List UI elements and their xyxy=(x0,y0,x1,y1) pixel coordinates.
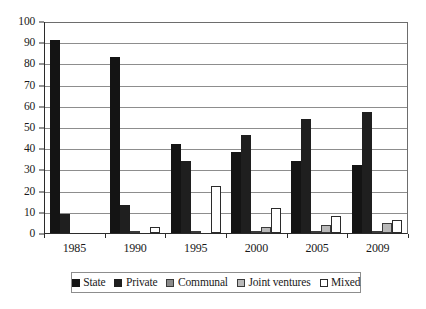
legend-swatch-icon xyxy=(237,279,245,287)
bar-1995-state xyxy=(171,144,181,233)
bar-1985-private xyxy=(60,214,70,233)
y-tick-label-30: 30 xyxy=(24,165,35,177)
legend-label: Private xyxy=(126,277,158,289)
x-axis-label-2000: 2000 xyxy=(226,239,287,259)
legend-label: Communal xyxy=(178,277,228,289)
y-axis: 0102030405060708090100 xyxy=(0,22,44,234)
bar-2005-state xyxy=(291,161,301,233)
bar-2005-private xyxy=(301,119,311,233)
x-tick-mark-1 xyxy=(105,234,106,238)
bar-group-1990 xyxy=(105,22,165,233)
bar-2000-communal xyxy=(251,231,261,233)
bar-group-2000 xyxy=(226,22,286,233)
x-tick-mark-0 xyxy=(44,234,45,238)
bar-2009-communal xyxy=(372,231,382,233)
bar-groups xyxy=(45,22,407,233)
legend-label: Joint ventures xyxy=(248,277,310,289)
y-tick-label-40: 40 xyxy=(24,143,35,155)
bar-1995-communal xyxy=(191,231,201,233)
x-tick-mark-6 xyxy=(408,234,409,238)
bar-2009-state xyxy=(352,165,362,233)
bar-1995-mixed xyxy=(211,186,221,233)
x-axis-label-2005: 2005 xyxy=(287,239,348,259)
bar-2005-joint-ventures xyxy=(321,225,331,233)
bar-2005-mixed xyxy=(331,216,341,233)
y-tick-label-80: 80 xyxy=(24,59,35,71)
bar-1990-communal xyxy=(130,231,140,233)
y-tick-label-50: 50 xyxy=(24,122,35,134)
bar-2009-joint-ventures xyxy=(382,223,392,233)
bar-1990-mixed xyxy=(150,227,160,233)
legend-swatch-icon xyxy=(114,279,122,287)
x-axis-label-1985: 1985 xyxy=(44,239,105,259)
chart-legend: StatePrivateCommunalJoint venturesMixed xyxy=(71,272,361,293)
bar-2000-mixed xyxy=(271,208,281,233)
bar-1990-state xyxy=(110,57,120,233)
legend-label: State xyxy=(83,277,105,289)
bar-2009-mixed xyxy=(392,220,402,233)
legend-swatch-icon xyxy=(72,279,80,287)
x-axis-label-2009: 2009 xyxy=(347,239,408,259)
legend-label: Mixed xyxy=(331,277,360,289)
bar-2009-private xyxy=(362,112,372,233)
y-tick-label-20: 20 xyxy=(24,186,35,198)
legend-item-private[interactable]: Private xyxy=(114,277,157,289)
legend-item-mixed[interactable]: Mixed xyxy=(320,277,361,289)
bar-2000-state xyxy=(231,152,241,233)
y-tick-label-100: 100 xyxy=(18,16,35,28)
bar-group-1985 xyxy=(45,22,105,233)
legend-item-state[interactable]: State xyxy=(72,277,106,289)
bar-2005-communal xyxy=(311,231,321,233)
bar-1985-state xyxy=(50,40,60,233)
y-tick-label-60: 60 xyxy=(24,101,35,113)
bar-chart-figure: 0102030405060708090100 19851990199520002… xyxy=(0,0,426,309)
y-tick-label-70: 70 xyxy=(24,80,35,92)
x-tick-mark-2 xyxy=(165,234,166,238)
legend-swatch-icon xyxy=(166,279,174,287)
x-axis-label-1995: 1995 xyxy=(165,239,226,259)
bar-1990-private xyxy=(120,205,130,233)
bar-2000-joint-ventures xyxy=(261,227,271,233)
x-tick-mark-3 xyxy=(226,234,227,238)
legend-swatch-icon xyxy=(320,279,328,287)
x-axis-label-1990: 1990 xyxy=(105,239,166,259)
y-tick-label-0: 0 xyxy=(29,228,35,240)
bar-group-2005 xyxy=(286,22,346,233)
x-tick-mark-4 xyxy=(287,234,288,238)
y-tick-label-90: 90 xyxy=(24,37,35,49)
y-tick-label-10: 10 xyxy=(24,207,35,219)
bar-1995-private xyxy=(181,161,191,233)
x-axis-labels: 198519901995200020052009 xyxy=(44,239,408,259)
legend-item-joint-ventures[interactable]: Joint ventures xyxy=(237,277,311,289)
legend-item-communal[interactable]: Communal xyxy=(166,277,227,289)
bar-group-1995 xyxy=(166,22,226,233)
bar-2000-private xyxy=(241,135,251,233)
x-tick-mark-5 xyxy=(347,234,348,238)
plot-area xyxy=(44,22,408,234)
bar-group-2009 xyxy=(347,22,407,233)
